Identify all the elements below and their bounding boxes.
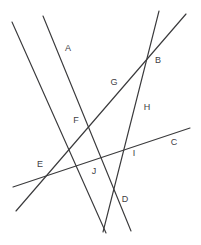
line-4 (16, 14, 186, 211)
line-2 (43, 16, 131, 231)
point-label-j: J (92, 167, 97, 176)
point-label-d: D (122, 195, 129, 204)
point-label-g: G (110, 78, 117, 87)
point-label-e: E (37, 160, 43, 169)
line-3 (103, 11, 159, 232)
figure-canvas (0, 0, 201, 245)
lines-group (12, 11, 190, 233)
line-5 (13, 128, 190, 187)
point-label-b: B (155, 56, 161, 65)
point-label-i: I (133, 149, 136, 158)
geometry-figure: ABCDEFGHIJ (0, 0, 201, 245)
point-label-a: A (65, 44, 71, 53)
point-label-h: H (144, 103, 151, 112)
point-label-c: C (171, 138, 178, 147)
point-label-f: F (73, 116, 79, 125)
